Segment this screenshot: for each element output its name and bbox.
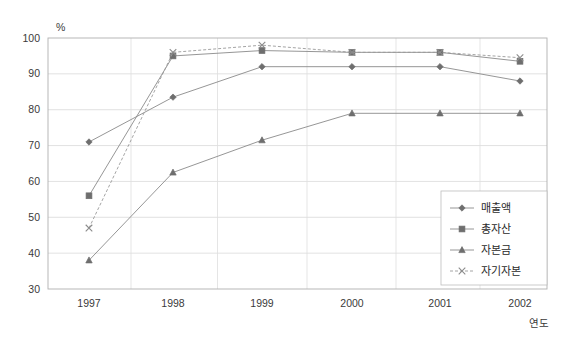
legend-label-4: 자기자본: [481, 265, 521, 277]
y-axis-tick-label: 50: [28, 211, 40, 223]
y-axis-tick-label: 30: [28, 283, 40, 295]
y-axis-unit-label: %: [56, 21, 65, 33]
data-point-diamond: [86, 139, 92, 145]
data-point-square: [259, 48, 265, 54]
data-point-diamond: [170, 94, 176, 100]
data-point-x: [86, 225, 93, 232]
y-axis-tick-label: 100: [22, 32, 40, 44]
y-axis-tick-label: 60: [28, 175, 40, 187]
series-line: [89, 51, 520, 196]
x-axis-tick-label: 2001: [428, 297, 452, 309]
x-axis-tick-label: 1999: [250, 297, 274, 309]
data-point-diamond: [259, 63, 265, 69]
y-axis-tick-label: 70: [28, 139, 40, 151]
legend: 매출액총자산자본금자기자본: [441, 191, 547, 285]
x-axis-tick-label: 2000: [340, 297, 364, 309]
y-axis-tick-label: 90: [28, 67, 40, 79]
chart-canvas: 30405060708090100%1997199819992000200120…: [0, 0, 573, 341]
y-axis-tick-label: 40: [28, 247, 40, 259]
x-axis-tick-label: 1997: [77, 297, 101, 309]
series-2: [86, 48, 523, 199]
x-axis-title: 연도: [529, 317, 549, 329]
x-axis-tick-label: 1998: [161, 297, 185, 309]
data-point-diamond: [437, 63, 443, 69]
x-axis-tick-label: 2002: [508, 297, 532, 309]
data-point-diamond: [517, 78, 523, 84]
series-1: [86, 63, 523, 145]
legend-label-1: 매출액: [481, 202, 511, 214]
y-axis-tick-label: 80: [28, 103, 40, 115]
data-point-square: [459, 226, 465, 232]
legend-label-2: 총자산: [481, 223, 511, 235]
data-point-square: [86, 193, 92, 199]
series-line: [89, 67, 520, 142]
legend-label-3: 자본금: [481, 244, 511, 256]
line-chart: 30405060708090100%1997199819992000200120…: [0, 0, 573, 341]
data-point-diamond: [349, 63, 355, 69]
